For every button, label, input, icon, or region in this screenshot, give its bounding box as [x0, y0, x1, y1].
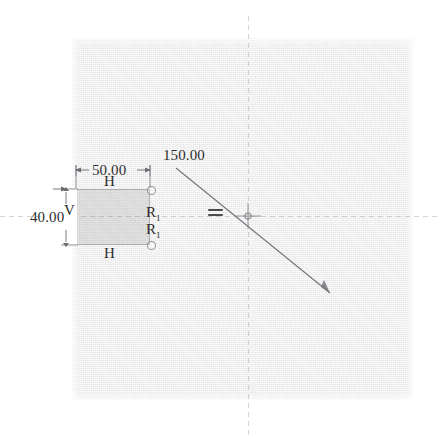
corner-point-top-right[interactable]	[147, 186, 156, 195]
sketch-overlay	[0, 0, 440, 439]
radius-constraint-lower-subscript: 1	[156, 230, 161, 240]
length-dimension-label[interactable]: 150.00	[163, 148, 205, 163]
radius-constraint-lower[interactable]: R1	[146, 222, 161, 240]
equal-bar-bottom	[208, 214, 223, 216]
diagonal-line-graphic[interactable]	[176, 168, 330, 293]
equal-constraint-icon[interactable]	[208, 209, 223, 218]
radius-constraint-upper-glyph: R	[146, 204, 156, 220]
origin-crosshair[interactable]	[236, 203, 261, 229]
equal-bar-top	[208, 209, 223, 211]
radius-constraint-lower-glyph: R	[146, 221, 156, 237]
horizontal-constraint-top[interactable]: H	[104, 174, 115, 189]
height-dimension-label[interactable]: 40.00	[30, 210, 64, 225]
horizontal-constraint-bottom[interactable]: H	[104, 246, 115, 261]
sketch-viewport: 50.00 40.00 150.00 H H V R1 R1	[0, 0, 440, 439]
vertical-constraint-left[interactable]: V	[64, 203, 75, 218]
corner-point-bottom-right[interactable]	[147, 241, 156, 250]
